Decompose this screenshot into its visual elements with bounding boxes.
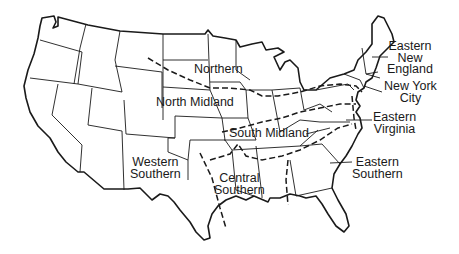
label-eastern-virginia: Eastern Virginia bbox=[373, 112, 416, 135]
label-line: England bbox=[387, 64, 433, 76]
label-eastern-southern: Eastern Southern bbox=[352, 157, 403, 180]
label-north-midland: North Midland bbox=[156, 97, 234, 109]
label-northern: Northern bbox=[194, 64, 243, 76]
label-new-york-city: New York City bbox=[384, 81, 437, 104]
label-line: Southern bbox=[214, 185, 265, 197]
label-central-southern: Central Southern bbox=[214, 173, 265, 196]
label-eastern-new-england: Eastern New England bbox=[387, 41, 433, 76]
label-line: City bbox=[384, 93, 437, 105]
label-line: Virginia bbox=[373, 124, 416, 136]
label-line: Southern bbox=[130, 169, 181, 181]
label-western-southern: Western Southern bbox=[130, 157, 181, 180]
label-line: Southern bbox=[352, 169, 403, 181]
label-south-midland: South Midland bbox=[229, 128, 309, 140]
